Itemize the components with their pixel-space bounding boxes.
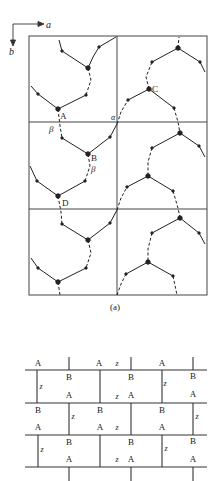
site-label-A: A bbox=[128, 454, 135, 464]
atom-nodes bbox=[36, 46, 201, 284]
site-label-A: A bbox=[96, 358, 103, 368]
site-label-B: B bbox=[128, 437, 134, 447]
site-label-A: A bbox=[97, 422, 104, 432]
site-label-B: B bbox=[35, 405, 41, 415]
unit-cell-grid bbox=[29, 36, 207, 295]
label-A: A bbox=[60, 111, 67, 121]
site-label-B: B bbox=[159, 405, 165, 415]
site-label-A: A bbox=[159, 358, 166, 368]
site-label-A: A bbox=[159, 422, 166, 432]
label-beta-2: β bbox=[90, 164, 96, 174]
axis-a-label: a bbox=[46, 19, 51, 30]
site-label-B: B bbox=[128, 372, 134, 382]
site-label-B: B bbox=[66, 437, 72, 447]
panel-a-caption: (a) bbox=[110, 302, 120, 312]
z-label: z bbox=[114, 455, 119, 464]
arrow-a-icon bbox=[38, 22, 44, 27]
site-label-A: A bbox=[190, 389, 197, 399]
axis-b-label: b bbox=[9, 46, 14, 57]
z-label: z bbox=[70, 412, 75, 421]
label-alpha: α bbox=[111, 113, 116, 122]
site-label-A: A bbox=[66, 390, 73, 400]
site-label-B: B bbox=[190, 436, 196, 446]
site-label-A: A bbox=[35, 422, 42, 432]
site-label-B: B bbox=[190, 371, 196, 381]
z-label: z bbox=[194, 412, 199, 421]
z-label: z bbox=[114, 423, 119, 432]
site-label-A: A bbox=[128, 390, 135, 400]
z-label: z bbox=[114, 392, 119, 401]
site-label-A: A bbox=[35, 358, 42, 368]
label-beta-1: β bbox=[48, 124, 54, 134]
z-label: z bbox=[39, 445, 44, 454]
z-label: z bbox=[163, 444, 168, 453]
site-label-A: A bbox=[66, 454, 73, 464]
label-C: C bbox=[152, 84, 158, 94]
axis-indicator bbox=[11, 22, 45, 47]
site-label-B: B bbox=[66, 372, 72, 382]
site-label-A: A bbox=[190, 454, 197, 464]
z-label: z bbox=[162, 379, 167, 388]
site-label-B: B bbox=[97, 405, 103, 415]
label-B: B bbox=[91, 153, 97, 163]
packing-labels: AAzAzBBzBAzAABBBzzAAzABBBzzAzAA bbox=[35, 358, 200, 464]
z-label: z bbox=[38, 382, 43, 391]
label-D: D bbox=[62, 198, 69, 208]
figure: a b bbox=[0, 0, 223, 481]
z-label: z bbox=[114, 359, 119, 368]
